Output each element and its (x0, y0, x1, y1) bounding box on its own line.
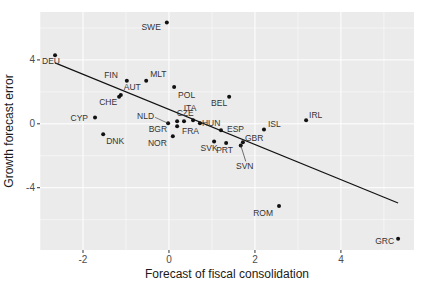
point-label-ita: ITA (184, 103, 197, 113)
data-point-cze (175, 119, 179, 123)
data-point-bgr (175, 124, 179, 128)
data-point-isl (262, 127, 266, 131)
point-label-hun: HUN (202, 118, 220, 128)
data-point-swe (165, 20, 169, 24)
point-label-bgr: BGR (149, 124, 167, 134)
data-point-irl (304, 118, 308, 122)
x-tick-label: 4 (338, 254, 344, 265)
point-label-deu: DEU (42, 56, 60, 66)
point-label-dnk: DNK (106, 136, 124, 146)
point-label-cyp: CYP (71, 113, 89, 123)
point-label-rom: ROM (253, 208, 273, 218)
data-point-che (117, 95, 121, 99)
data-point-esp (219, 128, 223, 132)
point-label-fin: FIN (104, 70, 118, 80)
point-label-gbr: GBR (245, 133, 263, 143)
data-point-nor (171, 134, 175, 138)
data-point-rom (277, 204, 281, 208)
point-label-bel: BEL (211, 98, 227, 108)
y-axis-title: Growth forecast error (2, 74, 16, 187)
y-tick-label: 4 (29, 54, 35, 65)
point-label-fra: FRA (182, 126, 199, 136)
point-label-esp: ESP (227, 124, 244, 134)
data-point-pol (172, 85, 176, 89)
data-point-fra (182, 119, 186, 123)
data-point-cyp (93, 115, 97, 119)
point-label-isl: ISL (268, 119, 281, 129)
data-point-dnk (101, 132, 105, 136)
y-tick-label: 0 (29, 118, 35, 129)
point-label-nld: NLD (137, 111, 154, 121)
data-point-ita (191, 118, 195, 122)
point-label-irl: IRL (309, 110, 323, 120)
data-point-mlt (144, 79, 148, 83)
x-tick-label: 0 (166, 254, 172, 265)
y-axis: -404 (26, 54, 40, 193)
point-label-grc: GRC (375, 236, 394, 246)
point-label-swe: SWE (141, 22, 161, 32)
point-label-mlt: MLT (150, 69, 166, 79)
y-tick-label: -4 (26, 182, 35, 193)
point-label-prt: PRT (216, 145, 233, 155)
x-axis-title: Forecast of fiscal consolidation (145, 267, 309, 281)
point-label-aut: AUT (124, 82, 141, 92)
x-tick-label: 2 (252, 254, 258, 265)
point-label-che: CHE (99, 97, 117, 107)
point-label-nor: NOR (148, 138, 167, 148)
scatter-chart: DEUSWEFINMLTAUTCHEPOLCYPDNKBELNLDCZEBGRF… (0, 0, 424, 291)
x-tick-label: -2 (79, 254, 88, 265)
data-point-bel (227, 95, 231, 99)
x-axis: -2024 (79, 250, 345, 265)
point-label-svn: SVN (236, 161, 253, 171)
point-label-pol: POL (178, 90, 195, 100)
data-point-grc (396, 237, 400, 241)
